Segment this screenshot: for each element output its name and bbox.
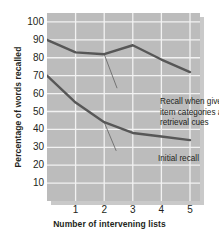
x-tick-label: 5: [182, 204, 198, 215]
chart-figure: Percentage of words recalled 10203040506…: [0, 0, 219, 240]
annotation-initial-recall: Initial recall: [158, 154, 219, 165]
x-axis-title: Number of intervening lists: [0, 219, 219, 229]
annotation-cued-recall: Recall when givenitem categories asretri…: [160, 97, 219, 129]
x-tick-label: 3: [125, 204, 141, 215]
annotation-line: retrieval cues: [160, 118, 219, 129]
series-line-cued-recall: [47, 40, 190, 72]
y-tick-label: 80: [18, 53, 44, 63]
y-tick-label: 100: [18, 17, 44, 27]
y-tick-label: 90: [18, 35, 44, 45]
x-axis-tick-labels: 12345: [47, 204, 200, 218]
annotation-line: Recall when given: [160, 97, 219, 108]
annotation-line: item categories as: [160, 108, 219, 119]
y-tick-label: 20: [18, 160, 44, 170]
annotation-line: Initial recall: [158, 154, 219, 165]
y-tick-label: 60: [18, 89, 44, 99]
plot-area: Recall when givenitem categories asretri…: [47, 13, 200, 201]
y-tick-label: 50: [18, 107, 44, 117]
y-tick-label: 70: [18, 71, 44, 81]
y-tick-label: 40: [18, 124, 44, 134]
x-tick-label: 1: [68, 204, 84, 215]
annotation-leader-line: [104, 54, 117, 88]
x-tick-label: 4: [153, 204, 169, 215]
y-tick-label: 10: [18, 178, 44, 188]
y-axis-tick-labels: 102030405060708090100: [14, 0, 44, 240]
y-tick-label: 30: [18, 142, 44, 152]
x-tick-label: 2: [96, 204, 112, 215]
